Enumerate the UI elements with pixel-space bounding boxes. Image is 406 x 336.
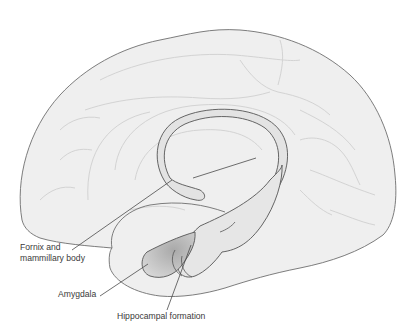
amygdala-label: Amygdala [58, 289, 96, 300]
fornix-label: Fornix and mammillary body [20, 242, 85, 264]
hippocampal-formation-label: Hippocampal formation [117, 311, 205, 322]
fornix-label-line1: Fornix and [20, 242, 85, 253]
fornix-label-line2: mammillary body [20, 253, 85, 264]
brain-diagram: Fornix and mammillary body Amygdala Hipp… [0, 0, 406, 336]
brain-illustration [0, 0, 406, 336]
